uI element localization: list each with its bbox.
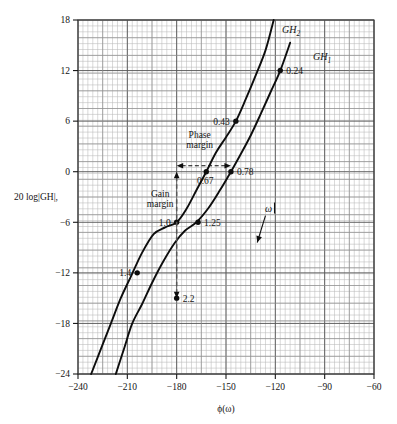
y-tick-label: −6 <box>60 218 70 228</box>
data-point-marker <box>278 68 283 73</box>
y-tick-label: −12 <box>55 268 70 278</box>
curve-label-gh1: GH1 <box>313 51 331 65</box>
phase-margin-annotation: Phase margin <box>177 130 231 169</box>
figure-root: −240−210−180−150−120−90−60 −24−18−12−606… <box>0 0 397 424</box>
data-point-marker <box>228 169 233 174</box>
data-point-omega-label: 0.43 <box>213 117 230 127</box>
data-point-omega-label: 0.78 <box>237 167 254 177</box>
x-axis-title: ϕ(ω) <box>217 404 235 415</box>
data-point-marker <box>135 270 140 275</box>
y-tick-label: −18 <box>55 319 70 329</box>
x-tick-label: −150 <box>216 382 236 392</box>
data-point-omega-label: 1.25 <box>204 218 221 228</box>
omega-symbol-label: ω <box>265 203 272 214</box>
data-point-omega-label: 2.2 <box>183 294 195 304</box>
phase-margin-label-line2: margin <box>186 140 213 150</box>
y-axis-title: 20 log|GH|, <box>14 192 58 202</box>
omega-arrow-head <box>256 235 262 242</box>
x-tick-label: −240 <box>68 382 88 392</box>
gain-margin-arrow-top <box>174 172 180 179</box>
x-tick-label: −180 <box>167 382 187 392</box>
gain-margin-label-line1: Gain <box>151 189 170 199</box>
data-point-omega-label: 1.4 <box>119 268 131 278</box>
data-point-marker <box>204 169 209 174</box>
y-tick-label: 12 <box>61 66 71 76</box>
data-point-marker <box>195 220 200 225</box>
y-tick-label: −24 <box>55 369 70 379</box>
grid-major <box>78 20 374 374</box>
y-tick-label: 0 <box>65 167 70 177</box>
data-point-marker <box>233 118 238 123</box>
data-point-omega-label: 0.67 <box>197 176 214 186</box>
x-tick-labels: −240−210−180−150−120−90−60 <box>68 382 381 392</box>
data-point-omega-label: 0.24 <box>286 66 303 76</box>
x-tick-label: −90 <box>317 382 332 392</box>
axis-ticks <box>73 20 374 379</box>
y-tick-label: 18 <box>61 15 71 25</box>
x-tick-label: −60 <box>367 382 382 392</box>
data-point-omega-label: 1.0 <box>159 218 171 228</box>
gain-margin-label-line2: margin <box>147 199 174 209</box>
x-tick-label: −120 <box>266 382 286 392</box>
phase-margin-label-line1: Phase <box>189 130 211 140</box>
x-tick-label: −210 <box>118 382 138 392</box>
y-tick-label: 6 <box>65 116 70 126</box>
nichols-chart-svg: −240−210−180−150−120−90−60 −24−18−12−606… <box>0 0 397 424</box>
